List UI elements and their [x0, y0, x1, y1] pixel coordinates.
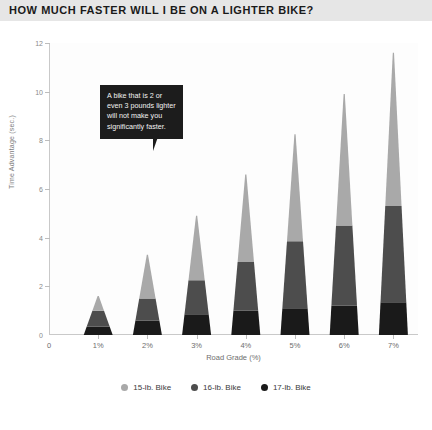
callout-tail-icon	[153, 134, 159, 151]
bar-segment	[238, 174, 254, 262]
y-tick-label: 8	[39, 137, 43, 144]
x-tick-mark	[393, 335, 394, 339]
x-tick-label: 5%	[290, 341, 301, 350]
x-tick-label: 3%	[191, 341, 202, 350]
bar-segment	[287, 134, 303, 241]
legend-label: 16-lb. Bike	[203, 383, 241, 392]
y-tick-label: 12	[35, 40, 43, 47]
bar-segment	[231, 311, 260, 335]
y-tick-label: 6	[39, 186, 43, 193]
bar-segment	[331, 226, 357, 306]
x-tick-label: 0	[47, 341, 51, 350]
callout-annotation: A bike that is 2 or even 3 pounds lighte…	[100, 85, 183, 139]
legend-item[interactable]: 17-lb. Bike	[261, 383, 311, 392]
x-tick-label: 4%	[240, 341, 251, 350]
y-tick-label: 4	[39, 234, 43, 241]
x-axis-title: Road Grade (%)	[49, 353, 418, 362]
bar-segment	[379, 302, 408, 335]
x-tick-label: 1%	[93, 341, 104, 350]
legend-label: 17-lb. Bike	[273, 383, 311, 392]
bar-segment	[84, 326, 113, 335]
legend-label: 15-lb. Bike	[133, 383, 171, 392]
legend-dot-icon	[191, 384, 198, 391]
bar-segment	[330, 306, 359, 335]
bar-segment	[188, 216, 204, 280]
y-tick-label: 0	[39, 332, 43, 339]
bar-segment	[385, 53, 401, 206]
bar-segment	[282, 241, 307, 308]
bar-segment	[92, 296, 104, 311]
bar-segment	[281, 308, 310, 335]
y-tick-label: 2	[39, 283, 43, 290]
callout-text: A bike that is 2 or even 3 pounds lighte…	[107, 91, 176, 132]
y-tick-label: 10	[35, 88, 43, 95]
x-tick-label: 7%	[388, 341, 399, 350]
chart-legend: 15-lb. Bike16-lb. Bike17-lb. Bike	[0, 383, 432, 392]
bar-segment	[139, 255, 155, 299]
x-tick-mark	[246, 335, 247, 339]
x-tick-mark	[98, 335, 99, 339]
x-tick-label: 2%	[142, 341, 153, 350]
bar-segment	[233, 262, 258, 311]
bar-segment	[87, 311, 110, 327]
bar-segment	[133, 320, 162, 335]
bar-segment	[336, 94, 352, 225]
legend-dot-icon	[261, 384, 268, 391]
bar-segment	[135, 299, 159, 321]
page-title: HOW MUCH FASTER WILL I BE ON A LIGHTER B…	[9, 4, 314, 16]
x-tick-label: 6%	[339, 341, 350, 350]
legend-item[interactable]: 16-lb. Bike	[191, 383, 241, 392]
x-tick-mark	[197, 335, 198, 339]
bar-segment	[182, 314, 211, 335]
legend-dot-icon	[121, 384, 128, 391]
chart-container: Time Advantage (sec.) 024681012 01%2%3%4…	[0, 21, 432, 430]
x-tick-mark	[344, 335, 345, 339]
bar-segment	[185, 280, 209, 314]
y-axis-title: Time Advantage (sec.)	[8, 115, 15, 189]
x-tick-mark	[147, 335, 148, 339]
bar-segment	[381, 206, 407, 302]
legend-item[interactable]: 15-lb. Bike	[121, 383, 171, 392]
x-tick-mark	[295, 335, 296, 339]
